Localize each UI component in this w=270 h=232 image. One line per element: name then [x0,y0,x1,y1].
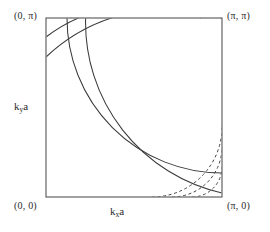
y-axis-label: kya [14,100,28,114]
fermi-surface-figure [0,0,270,232]
y-axis-label-a: a [23,100,28,112]
corner-label-top-left: (0, π) [14,10,37,21]
corner-label-bottom-right: (π, 0) [227,200,250,211]
plot-frame [46,18,222,197]
x-axis-label: kxa [110,205,124,219]
corner-label-top-right: (π, π) [227,10,250,21]
corner-label-bottom-left: (0, 0) [14,200,37,211]
x-axis-label-a: a [119,205,124,217]
